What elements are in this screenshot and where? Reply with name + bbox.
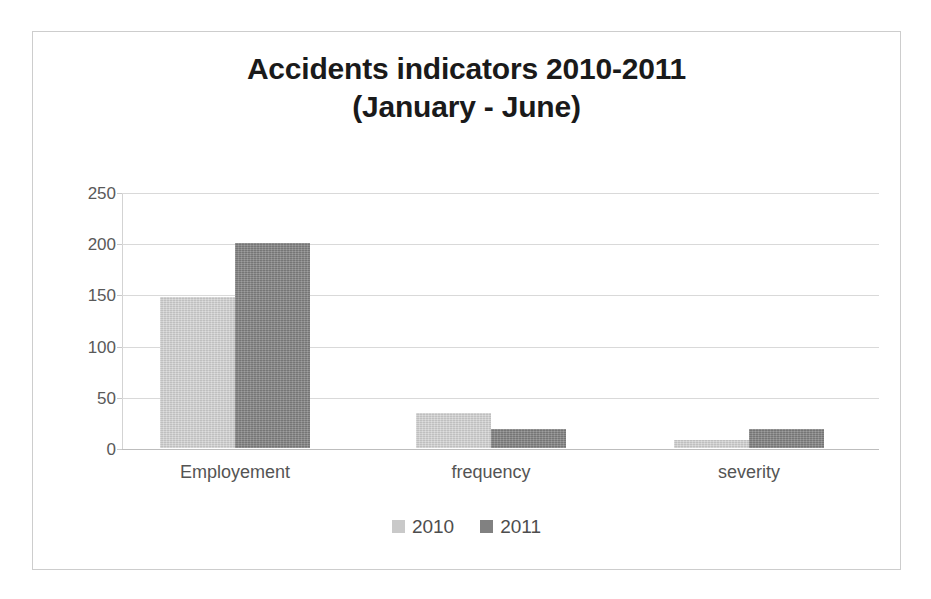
- legend-label-2011: 2011: [500, 517, 541, 536]
- gridline: [122, 449, 879, 450]
- x-axis-label-severity: severity: [649, 462, 849, 483]
- chart-subtitle: (January - June): [33, 88, 900, 126]
- chart-title-block: Accidents indicators 2010-2011 (January …: [33, 50, 900, 126]
- y-axis-tick-label: 150: [52, 287, 116, 304]
- legend-entry-2011: 2011: [480, 517, 541, 536]
- chart-figure-frame: Accidents indicators 2010-2011 (January …: [32, 31, 901, 570]
- bar-frequency-2011: [491, 429, 566, 448]
- bars-layer: [122, 193, 879, 449]
- y-axis-tick: [117, 449, 122, 450]
- y-axis-tick-labels: 250200150100500: [46, 193, 116, 449]
- chart-title: Accidents indicators 2010-2011: [33, 50, 900, 88]
- legend-swatch-icon-2011: [480, 520, 493, 533]
- bar-frequency-2010: [416, 413, 491, 448]
- bar-severity-2010: [674, 440, 749, 448]
- legend-label-2010: 2010: [412, 517, 454, 536]
- x-axis-label-frequency: frequency: [391, 462, 591, 483]
- bar-employement-2011: [235, 243, 310, 448]
- chart-legend: 20102011: [33, 517, 900, 536]
- bar-severity-2011: [749, 429, 824, 448]
- legend-entry-2010: 2010: [392, 517, 454, 536]
- y-axis-tick-label: 200: [52, 236, 116, 253]
- x-axis-label-employement: Employement: [135, 462, 335, 483]
- plot-area: 250200150100500: [122, 193, 879, 449]
- y-axis-tick-label: 100: [52, 338, 116, 355]
- y-axis-tick-label: 50: [52, 389, 116, 406]
- x-axis-category-labels: Employementfrequencyseverity: [122, 462, 879, 492]
- legend-swatch-icon-2010: [392, 520, 405, 533]
- y-axis-tick-label: 0: [52, 441, 116, 458]
- bar-employement-2010: [160, 297, 235, 448]
- y-axis-tick-label: 250: [52, 185, 116, 202]
